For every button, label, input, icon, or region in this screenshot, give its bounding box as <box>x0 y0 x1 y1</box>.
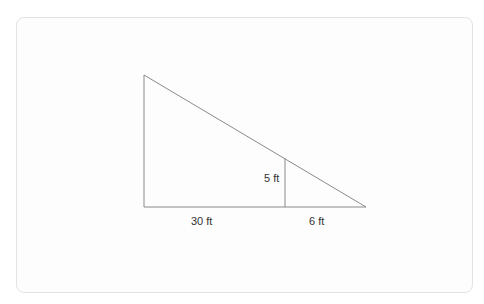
label-base-right: 6 ft <box>309 215 324 227</box>
label-small-height: 5 ft <box>264 172 279 184</box>
label-base-left: 30 ft <box>191 215 212 227</box>
triangle-diagram: 5 ft 30 ft 6 ft <box>0 0 484 304</box>
hypotenuse <box>144 75 366 207</box>
